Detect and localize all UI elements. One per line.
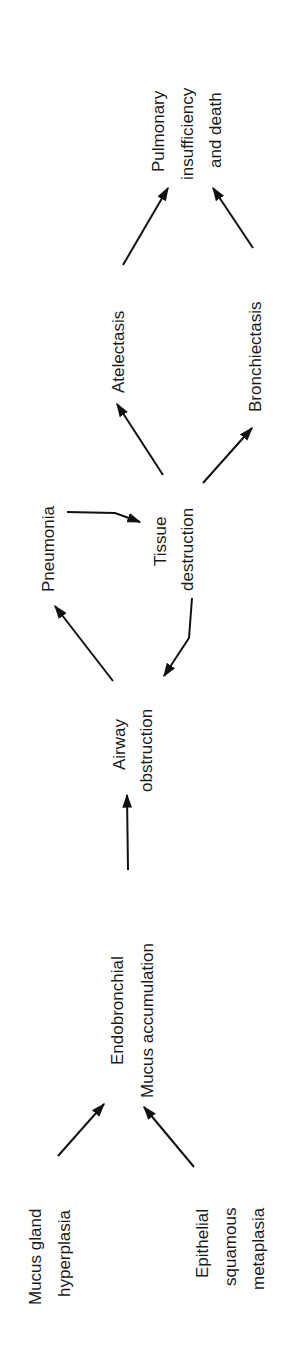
node-line: metaplasia [249,1207,268,1290]
node-mucus-gland-hyperplasia: Mucus gland hyperplasia [26,1209,74,1305]
node-line: Airway [110,718,129,770]
node-line: insufficiency [178,87,197,180]
node-line: Atelectasis [109,311,128,393]
node-line: Mucus accumulation [138,943,157,1098]
node-tissue-destruction: Tissue destruction [151,508,197,591]
arrow-epithelial-to-endobronchial [144,1107,194,1167]
node-line: obstruction [137,709,156,792]
node-line: Tissue [151,517,170,566]
node-bronchiectasis: Bronchiectasis [246,301,265,412]
arrow-pneumonia-to-tissue [67,512,140,522]
node-line: Bronchiectasis [246,301,265,412]
node-line: Pneumonia [39,505,58,592]
node-line: squamous [221,1208,240,1286]
node-line: Pulmonary [149,90,168,172]
flow-diagram: Mucus gland hyperplasia Epithelial squam… [0,0,289,1367]
node-line: and death [206,92,225,168]
node-line: Endobronchial [108,956,127,1065]
node-line: Epithelial [193,1209,212,1278]
arrow-tissue-to-bronchiectasis [203,428,252,483]
arrow-mucus-gland-to-endobronchial [58,1104,104,1156]
node-pneumonia: Pneumonia [39,505,58,592]
arrow-atelectasis-to-pulmonary [123,188,168,265]
arrow-airway-to-pneumonia [55,606,113,681]
arrow-tissue-to-airway [164,598,192,676]
node-line: destruction [178,508,197,591]
arrow-endobronchial-to-airway [127,795,128,870]
node-epithelial-squamous-metaplasia: Epithelial squamous metaplasia [193,1207,268,1290]
node-line: Mucus gland [26,1209,45,1305]
node-endobronchial-mucus-accumulation: Endobronchial Mucus accumulation [108,943,157,1098]
arrow-bronchiectasis-to-pulmonary [213,188,253,248]
node-line: hyperplasia [55,1210,74,1297]
node-atelectasis: Atelectasis [109,311,128,393]
node-pulmonary-insufficiency-and-death: Pulmonary insufficiency and death [149,87,225,180]
node-airway-obstruction: Airway obstruction [110,709,156,792]
arrow-tissue-to-atelectasis [117,404,163,475]
